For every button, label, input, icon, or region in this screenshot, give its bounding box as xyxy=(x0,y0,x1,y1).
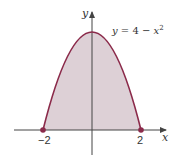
point-2 xyxy=(138,127,144,133)
tick-label-neg2: −2 xyxy=(38,134,51,146)
x-axis-label: x xyxy=(162,131,169,144)
equation-label: y = 4 − x2 xyxy=(111,24,164,36)
equation-exponent: 2 xyxy=(159,24,163,32)
equation-middle: = 4 − xyxy=(118,25,154,36)
point-neg2 xyxy=(40,127,46,133)
y-axis-label: y xyxy=(81,7,89,20)
parabola-chart: y x −2 2 y = 4 − x2 xyxy=(0,0,179,159)
tick-label-2: 2 xyxy=(137,134,143,146)
